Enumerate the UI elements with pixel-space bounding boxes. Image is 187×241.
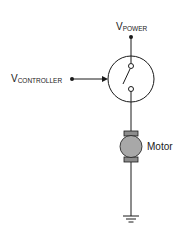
switch-lower-contact [129,87,134,92]
motor-body [120,136,142,158]
power-label: VPOWER [116,21,148,32]
ground-icon [123,216,139,222]
controller-label-sub: CONTROLLER [18,77,63,84]
motor-switch-circuit-diagram: VPOWER VCONTROLLER Mot [0,0,187,241]
motor-symbol [120,131,142,162]
switch-upper-contact [129,64,134,69]
switch-blade [123,69,130,84]
power-label-sub: POWER [123,25,148,32]
svg-text:VCONTROLLER: VCONTROLLER [11,73,62,84]
controller-arrowhead-icon [102,76,108,82]
motor-label: Motor [147,141,173,152]
controller-label: VCONTROLLER [11,73,62,84]
svg-text:VPOWER: VPOWER [116,21,148,32]
